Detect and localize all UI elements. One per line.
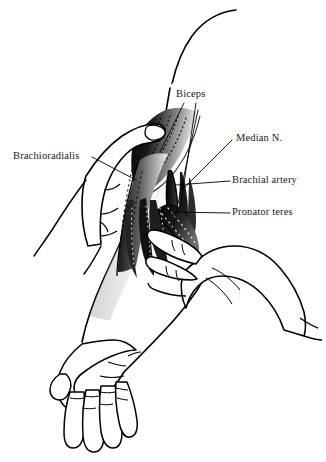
patient-hand	[50, 340, 141, 452]
anatomical-figure: Brachioradialis Biceps Median N. Brachia…	[0, 0, 326, 462]
label-biceps: Biceps	[176, 89, 205, 100]
label-brachial-artery: Brachial artery	[232, 175, 297, 186]
label-median-nerve: Median N.	[236, 133, 282, 144]
illustration-canvas	[0, 0, 326, 462]
label-brachioradialis: Brachioradialis	[13, 151, 79, 162]
label-pronator-teres: Pronator teres	[232, 207, 293, 218]
upper-arm-outline	[172, 10, 236, 84]
